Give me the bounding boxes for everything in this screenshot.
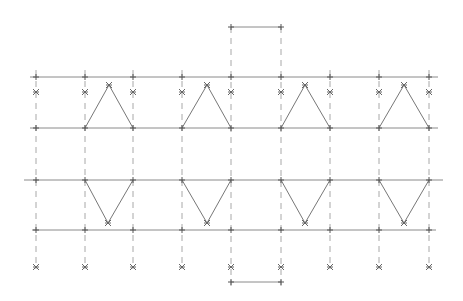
asterisk-marker-icon: [179, 264, 185, 270]
plus-marker-icon: [228, 125, 234, 131]
asterisk-marker-icon: [204, 220, 210, 226]
asterisk-marker-icon: [204, 82, 210, 88]
horizontal-lines: [24, 27, 443, 282]
plus-marker-icon: [278, 177, 284, 183]
lower-triangle: [379, 180, 429, 223]
lower-triangle: [281, 180, 330, 223]
plus-marker-icon: [376, 227, 382, 233]
plus-marker-icon: [327, 74, 333, 80]
asterisk-marker-icon: [130, 264, 136, 270]
plus-marker-icon: [327, 227, 333, 233]
triangles: [85, 85, 429, 223]
plus-marker-icon: [228, 279, 234, 285]
plus-marker-icon: [33, 227, 39, 233]
asterisk-marker-icon: [106, 82, 112, 88]
plus-marker-icon: [130, 227, 136, 233]
upper-triangle: [379, 85, 429, 128]
plus-marker-icon: [426, 227, 432, 233]
plus-marker-icon: [228, 227, 234, 233]
asterisk-marker-icon: [302, 82, 308, 88]
plus-marker-icon: [179, 74, 185, 80]
vertical-dashed-guides: [36, 27, 429, 288]
plus-marker-icon: [278, 74, 284, 80]
upper-triangle: [85, 85, 133, 128]
asterisk-marker-icon: [82, 264, 88, 270]
lower-triangle: [85, 180, 133, 223]
truss-diagram: [0, 0, 463, 301]
plus-marker-icon: [327, 177, 333, 183]
plus-marker-icon: [228, 74, 234, 80]
lower-triangle: [182, 180, 231, 223]
asterisk-marker-icon: [327, 264, 333, 270]
plus-marker-icon: [130, 125, 136, 131]
plus-marker-icon: [228, 24, 234, 30]
plus-marker-icon: [130, 177, 136, 183]
plus-marker-icon: [130, 74, 136, 80]
asterisk-marker-icon: [401, 220, 407, 226]
plus-marker-icon: [179, 125, 185, 131]
plus-marker-icon: [82, 125, 88, 131]
plus-marker-icon: [426, 74, 432, 80]
plus-marker-icon: [376, 177, 382, 183]
plus-marker-icon: [179, 227, 185, 233]
plus-marker-icon: [33, 125, 39, 131]
plus-marker-icon: [179, 177, 185, 183]
plus-marker-icon: [278, 24, 284, 30]
markers: [33, 24, 432, 285]
plus-marker-icon: [376, 125, 382, 131]
asterisk-marker-icon: [33, 264, 39, 270]
plus-marker-icon: [278, 279, 284, 285]
plus-marker-icon: [82, 227, 88, 233]
upper-triangle: [281, 85, 330, 128]
plus-marker-icon: [278, 125, 284, 131]
asterisk-marker-icon: [426, 264, 432, 270]
asterisk-marker-icon: [401, 82, 407, 88]
plus-marker-icon: [33, 177, 39, 183]
asterisk-marker-icon: [376, 264, 382, 270]
plus-marker-icon: [33, 74, 39, 80]
asterisk-marker-icon: [302, 220, 308, 226]
plus-marker-icon: [426, 125, 432, 131]
plus-marker-icon: [228, 177, 234, 183]
plus-marker-icon: [278, 227, 284, 233]
plus-marker-icon: [82, 177, 88, 183]
plus-marker-icon: [327, 125, 333, 131]
asterisk-marker-icon: [105, 220, 111, 226]
plus-marker-icon: [376, 74, 382, 80]
plus-marker-icon: [426, 177, 432, 183]
plus-marker-icon: [82, 74, 88, 80]
upper-triangle: [182, 85, 231, 128]
